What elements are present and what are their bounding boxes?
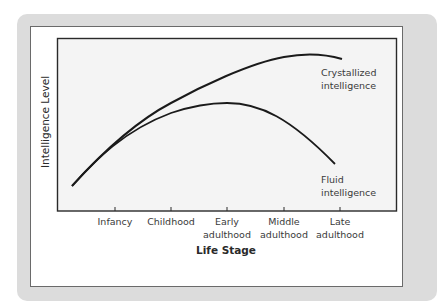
series-label-line: Fluid — [321, 173, 376, 186]
series-label-line: intelligence — [321, 186, 376, 199]
series-label-line: Crystallized — [321, 66, 376, 79]
x-tick-childhood: Childhood — [147, 215, 195, 228]
x-tick-middle-adulthood: Middle adulthood — [260, 215, 308, 241]
x-axis-label: Life Stage — [196, 244, 256, 256]
tick-label-line: Middle — [260, 215, 308, 228]
tick-label-line: Early — [203, 215, 251, 228]
x-tick-late-adulthood: Late adulthood — [316, 215, 364, 241]
tick-label-line: Infancy — [98, 215, 133, 228]
x-tick-infancy: Infancy — [98, 215, 133, 228]
tick-label-line: Late — [316, 215, 364, 228]
tick-label-line: adulthood — [260, 228, 308, 241]
x-tick-early-adulthood: Early adulthood — [203, 215, 251, 241]
y-axis-label: Intelligence Level — [39, 76, 51, 168]
series-label-line: intelligence — [321, 79, 376, 92]
tick-label-line: adulthood — [316, 228, 364, 241]
fluid-intelligence-label: Fluid intelligence — [321, 173, 376, 199]
crystallized-intelligence-label: Crystallized intelligence — [321, 66, 376, 92]
tick-label-line: adulthood — [203, 228, 251, 241]
tick-label-line: Childhood — [147, 215, 195, 228]
